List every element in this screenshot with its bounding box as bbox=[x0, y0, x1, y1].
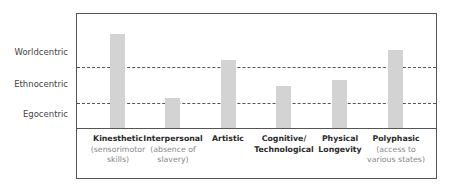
bar-artistic bbox=[221, 60, 236, 128]
x-label-sub: (absence of slavery) bbox=[135, 145, 211, 166]
x-label-sub: (access to various states) bbox=[358, 145, 434, 166]
y-label-worldcentric: Worldcentric bbox=[14, 47, 68, 57]
bar-cognitive-technological bbox=[276, 86, 291, 128]
bar-kinesthetic bbox=[110, 34, 125, 128]
y-label-egocentric: Egocentric bbox=[23, 109, 68, 119]
x-axis-baseline bbox=[76, 128, 437, 129]
y-label-ethnocentric: Ethnocentric bbox=[14, 79, 68, 89]
bar-physical-longevity bbox=[332, 80, 347, 128]
x-label-main: Polyphasic bbox=[358, 134, 434, 145]
boundary-line-world-ethno bbox=[77, 67, 436, 68]
bar-interpersonal bbox=[165, 98, 180, 128]
boundary-line-ethno-ego bbox=[77, 103, 436, 104]
x-label-polyphasic: Polyphasic (access to various states) bbox=[358, 134, 434, 166]
bar-polyphasic bbox=[388, 50, 403, 128]
